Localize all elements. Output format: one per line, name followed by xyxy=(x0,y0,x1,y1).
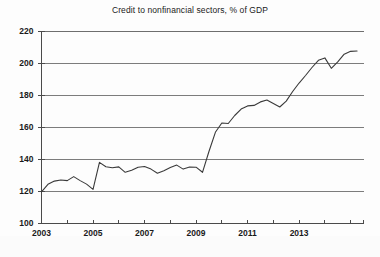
y-tick-label: 100 xyxy=(4,218,34,228)
data-series-group xyxy=(42,51,358,192)
footer-band xyxy=(0,236,380,257)
y-tick-label: 220 xyxy=(4,26,34,36)
chart-figure: Credit to nonfinancial sectors, % of GDP… xyxy=(0,0,380,257)
y-tick-label: 120 xyxy=(4,186,34,196)
y-tick-label: 140 xyxy=(4,154,34,164)
y-tick-label: 160 xyxy=(4,122,34,132)
data-series-line xyxy=(42,51,358,192)
plot-area xyxy=(0,0,380,257)
gridlines xyxy=(42,32,364,224)
y-tick-label: 200 xyxy=(4,58,34,68)
y-tick-label: 180 xyxy=(4,90,34,100)
